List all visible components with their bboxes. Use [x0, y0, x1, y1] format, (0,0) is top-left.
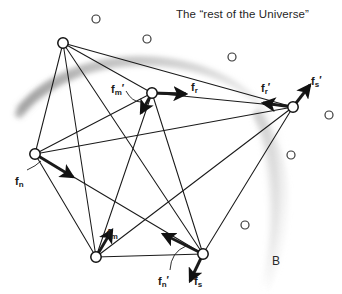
interaction-edge — [96, 107, 293, 257]
label-fn: fn — [15, 176, 24, 189]
node-top[interactable] — [58, 38, 68, 48]
star-5 — [287, 151, 295, 159]
node-left[interactable] — [30, 149, 40, 159]
page-title: The “rest of the Universe” — [176, 9, 309, 21]
interaction-edge — [35, 43, 63, 154]
label-fs-prime: fs′ — [311, 76, 322, 89]
node-right[interactable] — [288, 102, 298, 112]
network-edges — [35, 43, 293, 257]
node-center[interactable] — [147, 88, 157, 98]
node-bottom-right[interactable] — [198, 249, 208, 259]
arrow-fn — [35, 154, 73, 177]
interaction-edge — [63, 43, 152, 93]
label-fr-prime: fr′ — [261, 83, 270, 96]
arrow-fn-prime — [163, 234, 203, 254]
leader-fn — [27, 161, 41, 170]
leader-fn-prime — [170, 246, 186, 270]
label-fr: fr — [191, 82, 198, 95]
interaction-edge — [35, 154, 96, 257]
force-prime: ′ — [268, 82, 270, 93]
star-1 — [92, 15, 100, 23]
force-subscript: m — [115, 88, 122, 97]
interaction-edge — [63, 43, 96, 257]
interaction-edge — [63, 43, 293, 107]
force-prime: ′ — [319, 75, 321, 86]
star-2 — [143, 35, 151, 43]
force-prime: ′ — [167, 275, 169, 286]
graph-layer — [0, 0, 342, 294]
interaction-edge — [96, 254, 203, 257]
label-fm: fm — [107, 228, 118, 241]
label-fn-prime: fn′ — [158, 276, 169, 289]
force-subscript: m — [111, 232, 118, 241]
label-fs: fs — [194, 276, 202, 289]
force-prime: ′ — [122, 83, 124, 94]
boundary-label: B — [272, 255, 280, 267]
star-6 — [241, 221, 249, 229]
force-subscript: r — [195, 86, 198, 95]
interaction-edge — [203, 107, 293, 254]
force-subscript: s — [198, 280, 202, 289]
force-vectors — [35, 85, 310, 281]
star-3 — [228, 53, 236, 61]
star-4 — [325, 111, 333, 119]
node-bottom-left[interactable] — [91, 252, 101, 262]
force-subscript: n — [19, 180, 24, 189]
interaction-edge — [152, 93, 203, 254]
diagram-canvas: frfm′fmfnfn′fsfr′fs′ The “rest of the Un… — [0, 0, 342, 294]
label-fm-prime: fm′ — [111, 84, 124, 97]
